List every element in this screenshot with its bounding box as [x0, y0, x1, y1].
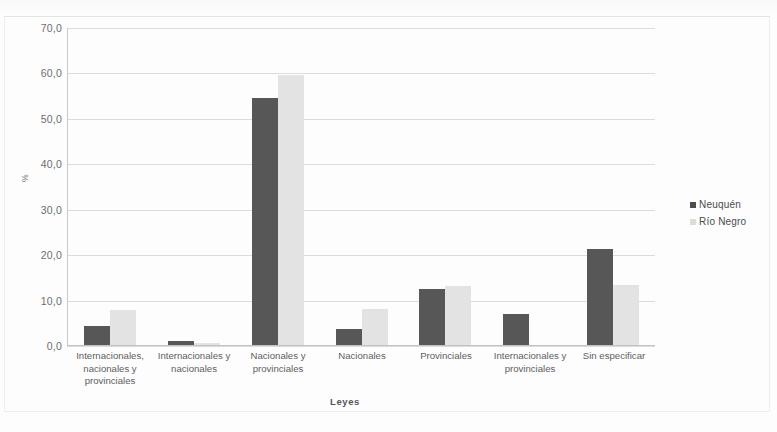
y-axis-tick-label: 50,0 [41, 113, 62, 125]
x-axis-line [67, 345, 655, 346]
x-axis-title: Leyes [0, 396, 690, 407]
bar[interactable] [503, 314, 529, 345]
y-axis-tick-label: 70,0 [41, 22, 62, 34]
x-axis-tick-label: Provinciales [404, 350, 488, 388]
scan-artifact [0, 0, 777, 14]
legend-item[interactable]: Neuquén [690, 196, 772, 213]
y-axis-tick-label: 10,0 [41, 295, 62, 307]
x-axis-tick-label: Internacionales y nacionales [152, 350, 236, 388]
x-axis-tick-label: Nacionales y provinciales [236, 350, 320, 388]
legend-swatch-icon [690, 202, 696, 208]
bar[interactable] [587, 249, 613, 345]
bar-group [320, 28, 404, 345]
gridline [67, 346, 655, 347]
bar-groups [68, 28, 655, 345]
x-axis-tick-label: Sin especificar [572, 350, 656, 388]
y-axis-tick-label: 0,0 [47, 340, 62, 352]
y-axis-tick-label: 30,0 [41, 204, 62, 216]
bar[interactable] [278, 75, 304, 345]
bar-chart-figure: % 0,010,020,030,040,050,060,070,0 Intern… [0, 0, 777, 432]
bar[interactable] [336, 329, 362, 345]
y-axis-tick-labels: 0,010,020,030,040,050,060,070,0 [22, 28, 62, 346]
bar[interactable] [194, 343, 220, 345]
bar[interactable] [362, 309, 388, 345]
bar[interactable] [419, 289, 445, 345]
y-axis-tick-label: 20,0 [41, 249, 62, 261]
legend-swatch-icon [690, 219, 696, 225]
bar[interactable] [84, 326, 110, 345]
y-axis-tick-label: 60,0 [41, 67, 62, 79]
legend-item-label: Neuquén [699, 199, 741, 210]
bar-group [236, 28, 320, 345]
plot-area [67, 28, 655, 346]
x-axis-tick-labels: Internacionales, nacionales y provincial… [68, 350, 656, 388]
bar[interactable] [252, 98, 278, 345]
bar-group [68, 28, 152, 345]
bar-group [403, 28, 487, 345]
legend-item[interactable]: Río Negro [690, 213, 772, 230]
legend-item-label: Río Negro [699, 216, 746, 227]
y-axis-tick-label: 40,0 [41, 158, 62, 170]
x-axis-tick-label: Internacionales, nacionales y provincial… [68, 350, 152, 388]
legend: NeuquénRío Negro [690, 196, 772, 230]
bar[interactable] [445, 286, 471, 345]
x-axis-tick-label: Nacionales [320, 350, 404, 388]
bar[interactable] [168, 341, 194, 345]
figure-border-top [4, 16, 770, 17]
bar-group [487, 28, 571, 345]
x-axis-tick-label: Internacionales y provinciales [488, 350, 572, 388]
bar-group [152, 28, 236, 345]
bar[interactable] [110, 310, 136, 345]
bar[interactable] [613, 285, 639, 345]
bar-group [571, 28, 655, 345]
